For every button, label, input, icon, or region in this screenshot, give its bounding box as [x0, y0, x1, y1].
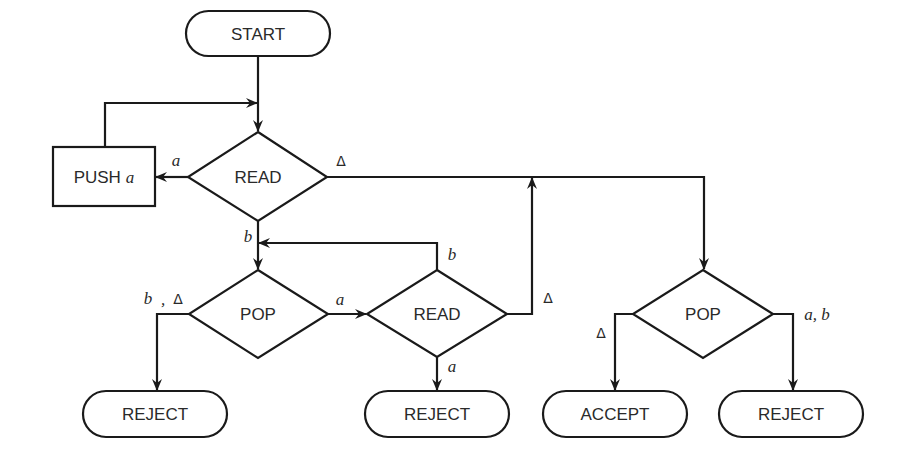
edge-push-to-read1	[105, 103, 257, 147]
node-pop1-label: POP	[240, 305, 276, 324]
node-reject3-label: REJECT	[758, 405, 824, 424]
label-pop1-sep: ,	[161, 290, 165, 309]
label-read2-b: b	[448, 245, 457, 264]
label-read1-delta: Δ	[336, 153, 346, 169]
node-pop2-label: POP	[685, 305, 721, 324]
label-pop2-ab: a, b	[804, 305, 830, 324]
push-var: a	[126, 168, 135, 187]
label-read2-a: a	[448, 357, 457, 376]
node-reject2-label: REJECT	[404, 405, 470, 424]
label-pop1-a: a	[336, 290, 345, 309]
node-read1: READ	[188, 132, 327, 221]
label-read1-a: a	[172, 151, 181, 170]
label-read1-b: b	[244, 227, 253, 246]
edge-pop1-to-reject1	[157, 314, 189, 390]
node-accept-label: ACCEPT	[581, 405, 650, 424]
node-start: START	[186, 11, 330, 56]
node-reject1-label: REJECT	[122, 405, 188, 424]
node-reject2: REJECT	[365, 391, 509, 437]
edge-read2-to-pop1	[259, 243, 437, 270]
edge-pop2-to-reject3	[773, 314, 793, 390]
node-pop1: POP	[189, 270, 328, 358]
node-push-a-label: PUSHa	[74, 168, 135, 187]
node-reject1: REJECT	[83, 391, 227, 437]
push-label: PUSH	[74, 168, 121, 187]
label-read2-delta: Δ	[543, 290, 553, 306]
node-pop2: POP	[633, 270, 773, 358]
node-read2: READ	[367, 270, 507, 357]
edge-pop2-to-accept	[615, 314, 633, 390]
pda-flowchart: START READ PUSHa POP READ POP REJECT REJ…	[0, 0, 905, 460]
label-pop1-delta: Δ	[173, 291, 183, 307]
node-accept: ACCEPT	[543, 391, 687, 437]
label-pop1-b: b	[144, 289, 153, 308]
edge-read2-to-pop2	[507, 178, 532, 314]
node-read1-label: READ	[234, 168, 281, 187]
label-pop2-delta: Δ	[596, 325, 606, 341]
node-read2-label: READ	[413, 305, 460, 324]
node-push-a: PUSHa	[53, 147, 155, 206]
node-reject3: REJECT	[719, 391, 863, 437]
node-start-label: START	[231, 25, 285, 44]
edge-read1-to-pop2	[327, 177, 704, 269]
